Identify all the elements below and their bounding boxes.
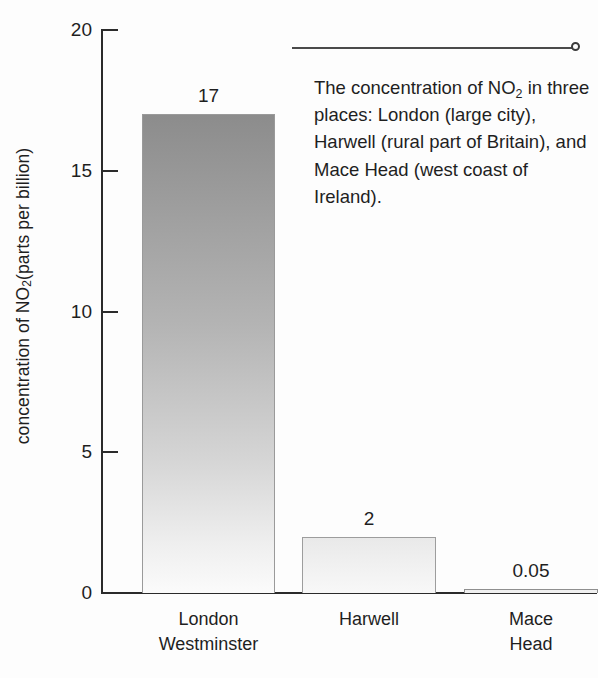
annotation-leader-line [292,47,572,49]
y-tick-5 [103,451,118,453]
x-axis-label-london-westminster: London Westminster [159,607,259,657]
y-tick-label-10: 10 [46,301,92,323]
x-axis-label-harwell: Harwell [339,607,399,632]
y-tick-15 [103,170,118,172]
y-tick-20 [103,29,118,31]
bar-london-westminster[interactable] [142,114,275,593]
y-tick-label-15: 15 [46,160,92,182]
y-axis-title-pre: concentration of NO [13,287,34,445]
y-tick-10 [103,311,118,313]
bar-value-mace-head: 0.05 [513,560,550,582]
y-tick-label-0: 0 [46,582,92,604]
annotation-caption: The concentration of NO2 in three places… [314,74,592,210]
bar-mace-head[interactable] [464,589,598,593]
bar-harwell[interactable] [302,537,436,593]
x-axis-label-mace-head: Mace Head [498,607,564,657]
y-tick-0 [103,592,118,594]
y-tick-label-20: 20 [46,19,92,41]
bar-value-london-westminster: 17 [198,85,219,107]
y-axis-title: concentration of NO2 (parts per billion) [6,0,40,596]
y-tick-label-5: 5 [46,441,92,463]
annotation-text-pre: The concentration of NO [314,77,516,98]
annotation-text-subscript: 2 [516,87,523,101]
annotation-end-dot-icon [571,42,580,51]
y-axis-title-post: (parts per billion) [13,148,34,280]
y-axis-title-subscript: 2 [20,280,34,287]
bar-value-harwell: 2 [364,508,375,530]
